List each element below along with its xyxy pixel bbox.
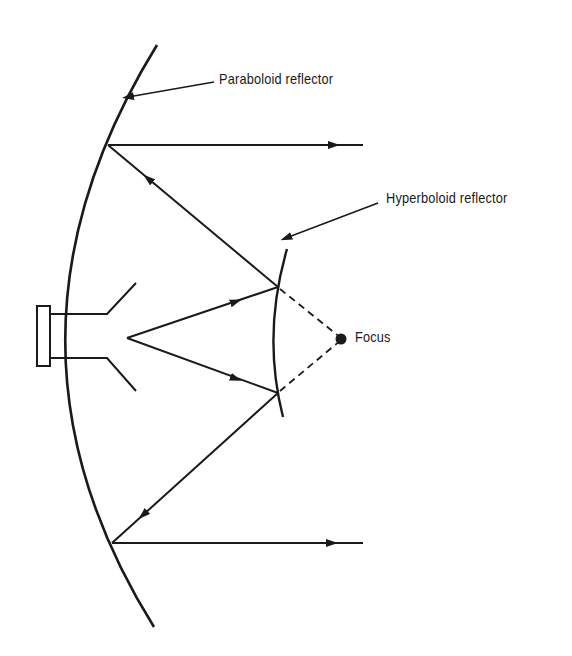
focus-label: Focus xyxy=(355,329,391,345)
leader-paraboloid xyxy=(128,82,214,97)
virtual-ray-lower xyxy=(280,340,341,391)
feed-horn-lower-wall xyxy=(50,358,136,391)
feed-horn-upper-wall xyxy=(50,283,136,314)
ray-feed-to-sub-upper xyxy=(127,287,278,338)
arrow-sub-main-lower-marker xyxy=(143,504,155,515)
leader-hyperboloid xyxy=(286,203,378,238)
ray-feed-to-sub-lower xyxy=(127,338,278,393)
hyperboloid-reflector-label: Hyperboloid reflector xyxy=(386,190,507,206)
virtual-ray-upper xyxy=(280,289,341,338)
ray-sub-to-main-lower xyxy=(112,393,278,543)
paraboloid-reflector xyxy=(65,45,157,627)
focus-point xyxy=(336,334,347,345)
feed-horn xyxy=(37,283,136,391)
paraboloid-reflector-label: Paraboloid reflector xyxy=(219,71,333,87)
cassegrain-diagram xyxy=(0,0,572,656)
arrow-feed-upper-marker xyxy=(220,302,236,308)
feed-flange xyxy=(37,306,50,366)
ray-sub-to-main-upper xyxy=(108,145,278,287)
arrow-sub-main-upper-marker xyxy=(148,179,160,189)
